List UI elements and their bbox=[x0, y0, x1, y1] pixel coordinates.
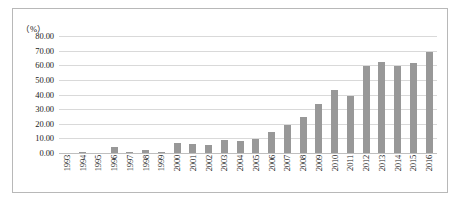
x-axis-tick: 2008 bbox=[298, 155, 308, 171]
x-axis-slot: 2012 bbox=[358, 155, 374, 189]
bar-slot bbox=[406, 36, 422, 153]
bar[interactable] bbox=[315, 104, 322, 153]
bar-slot bbox=[106, 36, 122, 153]
x-axis-tick: 2013 bbox=[377, 155, 387, 171]
y-axis-tick-labels: 80.0070.0060.0050.0040.0030.0020.0010.00… bbox=[13, 36, 57, 153]
x-axis-slot: 2002 bbox=[201, 155, 217, 189]
bar[interactable] bbox=[126, 152, 133, 153]
x-axis-slot: 2001 bbox=[185, 155, 201, 189]
x-axis-tick: 2007 bbox=[282, 155, 292, 171]
bar-slot bbox=[185, 36, 201, 153]
bar[interactable] bbox=[142, 150, 149, 153]
x-axis-tick: 1994 bbox=[78, 155, 88, 171]
bar-slot bbox=[280, 36, 296, 153]
x-axis-tick: 2016 bbox=[424, 155, 434, 171]
x-axis-slot: 2008 bbox=[295, 155, 311, 189]
bar-slot bbox=[343, 36, 359, 153]
bar[interactable] bbox=[426, 52, 433, 153]
bar[interactable] bbox=[221, 140, 228, 153]
x-axis-slot: 1997 bbox=[122, 155, 138, 189]
bar[interactable] bbox=[363, 66, 370, 153]
x-axis-slot: 2016 bbox=[421, 155, 437, 189]
bar-slot bbox=[91, 36, 107, 153]
bar-slot bbox=[248, 36, 264, 153]
y-axis-tick: 60.00 bbox=[35, 60, 54, 70]
x-axis-slot: 2003 bbox=[217, 155, 233, 189]
gridline bbox=[59, 153, 437, 154]
x-axis-tick: 2014 bbox=[393, 155, 403, 171]
x-axis-slot: 2007 bbox=[280, 155, 296, 189]
bar-slot bbox=[138, 36, 154, 153]
bar-slot bbox=[311, 36, 327, 153]
bar[interactable] bbox=[331, 90, 338, 153]
x-axis-tick: 2005 bbox=[251, 155, 261, 171]
bar-slot bbox=[122, 36, 138, 153]
x-axis-slot: 2005 bbox=[248, 155, 264, 189]
x-axis-tick: 2002 bbox=[204, 155, 214, 171]
x-axis-tick: 1999 bbox=[156, 155, 166, 171]
x-axis-tick: 1996 bbox=[109, 155, 119, 171]
y-axis-tick: 70.00 bbox=[35, 46, 54, 56]
bar-slot bbox=[295, 36, 311, 153]
bar[interactable] bbox=[268, 132, 275, 153]
x-axis-tick: 2015 bbox=[408, 155, 418, 171]
x-axis-tick: 1998 bbox=[141, 155, 151, 171]
y-axis-tick: 80.00 bbox=[35, 31, 54, 41]
x-axis-slot: 1996 bbox=[106, 155, 122, 189]
bar[interactable] bbox=[237, 141, 244, 153]
bar[interactable] bbox=[111, 147, 118, 153]
bar-slot bbox=[75, 36, 91, 153]
x-axis-tick: 2010 bbox=[330, 155, 340, 171]
bar-slot bbox=[374, 36, 390, 153]
x-axis-tick: 2012 bbox=[361, 155, 371, 171]
x-axis-slot: 1999 bbox=[154, 155, 170, 189]
x-axis-tick: 2006 bbox=[267, 155, 277, 171]
x-axis-slot: 2004 bbox=[232, 155, 248, 189]
bar-series bbox=[59, 36, 437, 153]
bar-slot bbox=[201, 36, 217, 153]
y-axis-tick: 50.00 bbox=[35, 75, 54, 85]
bar[interactable] bbox=[410, 63, 417, 153]
x-axis-slot: 2013 bbox=[374, 155, 390, 189]
bar[interactable] bbox=[158, 152, 165, 153]
bar[interactable] bbox=[347, 96, 354, 153]
y-axis-tick: 30.00 bbox=[35, 104, 54, 114]
bar[interactable] bbox=[300, 117, 307, 153]
bar-slot bbox=[169, 36, 185, 153]
x-axis-slot: 2006 bbox=[264, 155, 280, 189]
bar-slot bbox=[390, 36, 406, 153]
bar[interactable] bbox=[189, 144, 196, 153]
x-axis-tick: 1995 bbox=[93, 155, 103, 171]
y-axis-tick: 10.00 bbox=[35, 133, 54, 143]
bar[interactable] bbox=[284, 125, 291, 153]
x-axis-slot: 2015 bbox=[406, 155, 422, 189]
x-axis-slot: 1994 bbox=[75, 155, 91, 189]
x-axis-tick-labels: 1993199419951996199719981999200020012002… bbox=[59, 155, 437, 189]
x-axis-slot: 2014 bbox=[390, 155, 406, 189]
x-axis-tick: 2001 bbox=[188, 155, 198, 171]
x-axis-tick: 1993 bbox=[62, 155, 72, 171]
chart-container: （%） 80.0070.0060.0050.0040.0030.0020.001… bbox=[12, 8, 448, 193]
x-axis-tick: 2009 bbox=[314, 155, 324, 171]
bar[interactable] bbox=[394, 66, 401, 153]
bar-slot bbox=[358, 36, 374, 153]
x-axis-tick: 2004 bbox=[235, 155, 245, 171]
bar[interactable] bbox=[252, 139, 259, 153]
bar[interactable] bbox=[378, 62, 385, 153]
bar-slot bbox=[217, 36, 233, 153]
x-axis-slot: 2000 bbox=[169, 155, 185, 189]
bar[interactable] bbox=[79, 152, 86, 153]
x-axis-slot: 2011 bbox=[343, 155, 359, 189]
bar-slot bbox=[232, 36, 248, 153]
x-axis-tick: 2000 bbox=[172, 155, 182, 171]
y-axis-tick: 40.00 bbox=[35, 90, 54, 100]
plot-area bbox=[59, 36, 437, 153]
x-axis-tick: 2003 bbox=[219, 155, 229, 171]
x-axis-slot: 2009 bbox=[311, 155, 327, 189]
y-axis-tick: 20.00 bbox=[35, 119, 54, 129]
bar[interactable] bbox=[205, 145, 212, 153]
x-axis-slot: 1995 bbox=[91, 155, 107, 189]
bar[interactable] bbox=[174, 143, 181, 153]
x-axis-tick: 1997 bbox=[125, 155, 135, 171]
bar-slot bbox=[154, 36, 170, 153]
